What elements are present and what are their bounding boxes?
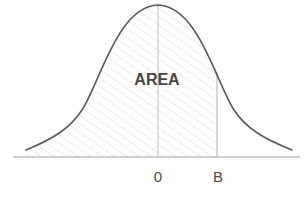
mean-label: 0	[154, 168, 162, 185]
bound-label: B	[213, 168, 223, 185]
area-label: AREA	[134, 71, 180, 88]
normal-curve-diagram: AREA 0 B	[0, 0, 307, 198]
